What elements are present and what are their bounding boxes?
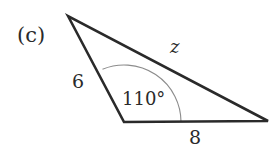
side-label-6: 6 (72, 72, 84, 91)
triangle-outline (68, 16, 268, 122)
part-label: (c) (17, 25, 45, 46)
angle-label: 110° (122, 90, 165, 108)
side-label-8: 8 (189, 128, 201, 147)
side-label-z: z (170, 38, 179, 56)
